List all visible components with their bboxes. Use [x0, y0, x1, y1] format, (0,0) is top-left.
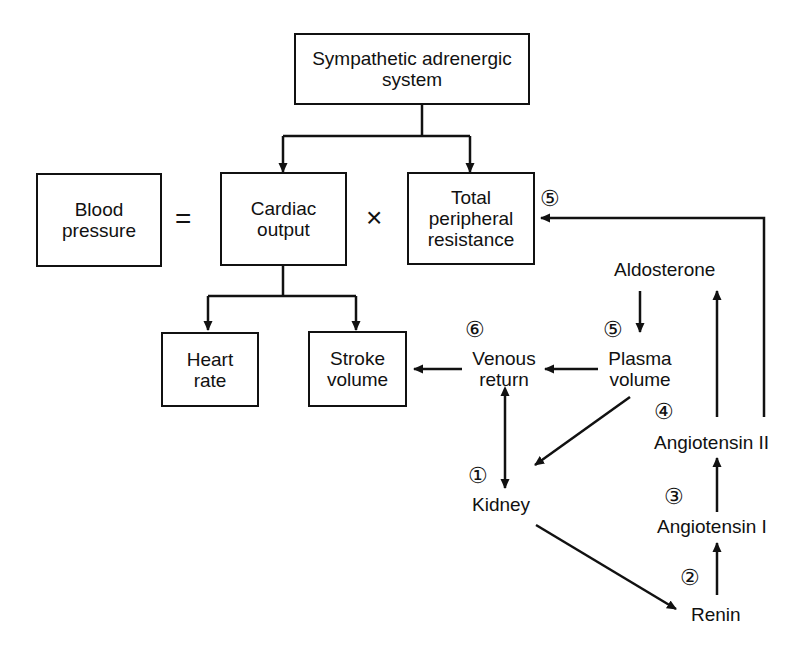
node-label: peripheral	[429, 208, 514, 229]
node-label: volume	[327, 369, 388, 390]
step-marker-2-renin: ②	[680, 567, 700, 589]
node-label: volume	[604, 369, 676, 390]
multiply-operator: ×	[366, 204, 382, 232]
node-renin: Renin	[691, 604, 741, 625]
step-marker-5-tpr: ⑤	[540, 188, 560, 210]
arrow-kidney-to-renin	[536, 525, 676, 609]
node-label: pressure	[62, 220, 136, 241]
node-total-peripheral-resistance: Total peripheral resistance	[407, 172, 535, 265]
node-label: Venous	[466, 348, 542, 369]
step-marker-1-kidney: ①	[468, 465, 488, 487]
node-venous-return: Venous return	[466, 348, 542, 390]
node-heart-rate: Heart rate	[161, 332, 259, 407]
node-plasma-volume: Plasma volume	[604, 348, 676, 390]
step-marker-4-angiotensin-ii: ④	[654, 401, 674, 423]
step-marker-6-venous-return: ⑥	[465, 319, 485, 341]
node-label: Stroke	[330, 348, 385, 369]
node-cardiac-output: Cardiac output	[220, 172, 347, 266]
step-marker-5-plasma-volume: ⑤	[603, 319, 623, 341]
node-label: system	[382, 69, 442, 90]
step-marker-3-angiotensin-i: ③	[664, 486, 684, 508]
node-label: output	[257, 219, 310, 240]
node-label: Cardiac	[251, 198, 316, 219]
node-label: Heart	[187, 349, 233, 370]
node-sympathetic-adrenergic-system: Sympathetic adrenergic system	[294, 33, 530, 105]
node-angiotensin-i: Angiotensin I	[657, 516, 767, 537]
node-label: Sympathetic adrenergic	[312, 48, 512, 69]
node-label: rate	[194, 370, 227, 391]
equals-operator: =	[175, 205, 191, 233]
node-label: Plasma	[604, 348, 676, 369]
node-blood-pressure: Blood pressure	[36, 173, 162, 267]
arrow-plasma-to-kidney	[535, 397, 630, 465]
node-label: resistance	[428, 229, 515, 250]
node-label: return	[466, 369, 542, 390]
diagram-canvas: Sympathetic adrenergic system Blood pres…	[0, 0, 808, 648]
node-stroke-volume: Stroke volume	[308, 331, 407, 407]
node-angiotensin-ii: Angiotensin II	[654, 432, 769, 453]
node-label: Blood	[75, 199, 124, 220]
node-aldosterone: Aldosterone	[614, 259, 715, 280]
node-label: Total	[451, 187, 491, 208]
node-kidney: Kidney	[472, 494, 530, 515]
